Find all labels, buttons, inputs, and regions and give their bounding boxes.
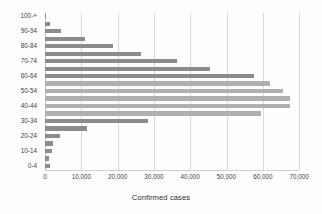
bar-70-74 (45, 59, 177, 63)
bar-row (45, 155, 299, 162)
y-tick-label: 10-14 (21, 147, 37, 154)
gridline-70000 (299, 13, 300, 170)
bar-row (45, 13, 299, 20)
bar-95-99 (45, 22, 50, 26)
bar-row (45, 133, 299, 140)
bar-chart: 100-+90-9480-8470-7460-6450-5440-4430-34… (0, 0, 322, 214)
bar-row (45, 88, 299, 95)
y-tick-label: 80-84 (21, 42, 37, 49)
y-tick-label: 70-74 (21, 57, 37, 64)
y-tick-label: 60-64 (21, 72, 37, 79)
y-tick-label: 90-94 (21, 27, 37, 34)
bar-series (45, 13, 299, 170)
bar-row (45, 140, 299, 147)
x-tick-label: 20,000 (108, 173, 127, 180)
bar-60-64 (45, 74, 254, 78)
bar-55-59 (45, 81, 270, 85)
y-tick-label: 50-54 (21, 87, 37, 94)
y-axis-tick-labels: 100-+90-9480-8470-7460-6450-5440-4430-34… (0, 13, 42, 170)
bar-20-24 (45, 134, 60, 138)
bar-row (45, 148, 299, 155)
x-tick-label: 40,000 (181, 173, 200, 180)
x-tick-label: 70,000 (289, 173, 308, 180)
bar-5-9 (45, 156, 49, 160)
x-tick-label: 0 (43, 173, 47, 180)
bar-100-+ (45, 14, 46, 18)
bar-row (45, 65, 299, 72)
bar-row (45, 80, 299, 87)
x-axis-title: Confirmed cases (0, 193, 322, 202)
bar-90-94 (45, 29, 61, 33)
bar-row (45, 28, 299, 35)
bar-80-84 (45, 44, 113, 48)
y-tick-label: 40-44 (21, 102, 37, 109)
bar-row (45, 20, 299, 27)
x-axis-line (45, 170, 299, 171)
bar-row (45, 125, 299, 132)
y-tick-label: 20-24 (21, 132, 37, 139)
bar-row (45, 103, 299, 110)
x-tick-label: 60,000 (253, 173, 272, 180)
bar-85-89 (45, 37, 85, 41)
bar-0-4 (45, 164, 50, 168)
bar-10-14 (45, 149, 52, 153)
bar-row (45, 163, 299, 170)
bar-65-69 (45, 67, 210, 71)
bar-row (45, 58, 299, 65)
bar-50-54 (45, 89, 283, 93)
bar-row (45, 50, 299, 57)
bar-75-79 (45, 52, 141, 56)
bar-row (45, 110, 299, 117)
x-tick-label: 10,000 (72, 173, 91, 180)
bar-25-29 (45, 126, 87, 130)
bar-row (45, 95, 299, 102)
bar-row (45, 43, 299, 50)
bar-15-19 (45, 141, 53, 145)
bar-45-49 (45, 96, 290, 100)
x-axis-tick-labels: 010,00020,00030,00040,00050,00060,00070,… (0, 173, 322, 185)
y-tick-label: 100-+ (20, 12, 37, 19)
bar-row (45, 118, 299, 125)
x-tick-label: 50,000 (217, 173, 236, 180)
bar-35-39 (45, 111, 261, 115)
bar-row (45, 35, 299, 42)
y-tick-label: 0-4 (28, 162, 37, 169)
plot-area (45, 13, 299, 170)
x-tick-label: 30,000 (144, 173, 163, 180)
bar-row (45, 73, 299, 80)
bar-30-34 (45, 119, 148, 123)
y-tick-label: 30-34 (21, 117, 37, 124)
bar-40-44 (45, 104, 290, 108)
